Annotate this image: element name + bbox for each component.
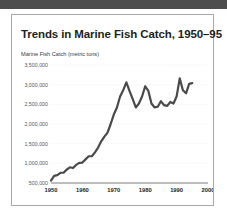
y-axis-tick-label: 500,000 (29, 180, 48, 186)
x-axis-tick-label: 2000 (202, 187, 213, 193)
line-chart-svg: 500,0001,000,0001,500,0002,000,0002,500,… (12, 59, 213, 205)
chart-card-inner: Trends in Marine Fish Catch, 1950–95 Mar… (12, 15, 213, 205)
fish-catch-series-line (51, 78, 192, 180)
screenshot-root: Trends in Marine Fish Catch, 1950–95 Mar… (0, 0, 227, 220)
top-dark-bar (0, 0, 227, 9)
x-axis-tick-label: 1980 (139, 187, 152, 193)
y-axis-tick-label: 3,000,000 (24, 82, 48, 88)
x-axis-tick-label: 1970 (107, 187, 120, 193)
y-axis-labels-group: 500,0001,000,0001,500,0002,000,0002,500,… (24, 62, 48, 186)
x-axis-labels-group: 195019601970198019902000 (45, 187, 213, 193)
y-axis-tick-label: 1,000,000 (24, 160, 48, 166)
y-axis-tick-label: 2,000,000 (24, 121, 48, 127)
x-axis-tick-label: 1950 (45, 187, 58, 193)
y-axis-tick-label: 1,500,000 (24, 141, 48, 147)
y-axis-tick-label: 2,500,000 (24, 101, 48, 107)
y-axis-tick-label: 3,500,000 (24, 62, 48, 68)
x-axis-tick-label: 1960 (76, 187, 89, 193)
chart-subtitle: Marine Fish Catch (metric tons) (21, 51, 99, 57)
x-axis-tick-label: 1990 (170, 187, 183, 193)
gridlines-group (51, 65, 208, 163)
chart-card: Trends in Marine Fish Catch, 1950–95 Mar… (11, 14, 214, 206)
plot-area: 500,0001,000,0001,500,0002,000,0002,500,… (12, 59, 213, 205)
chart-title: Trends in Marine Fish Catch, 1950–95 (21, 28, 222, 40)
